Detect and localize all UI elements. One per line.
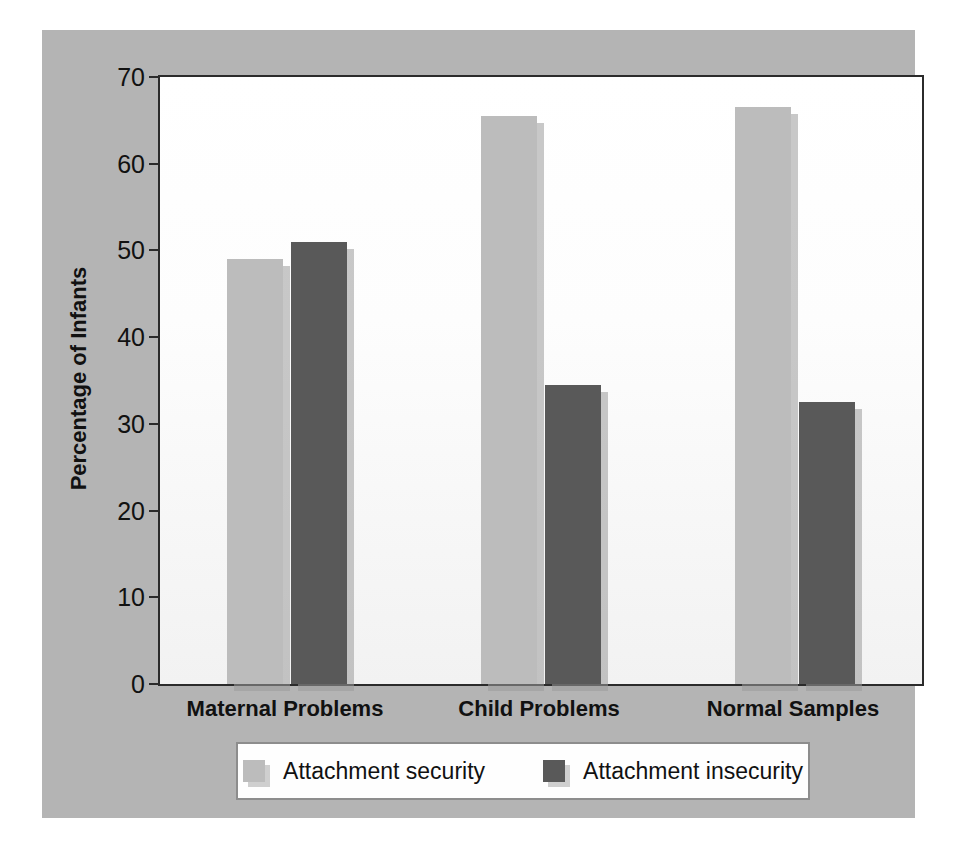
x-axis-label-child-problems: Child Problems [458, 696, 619, 722]
y-axis-tick-label: 40 [117, 325, 145, 350]
bar-maternal-problems-attachment-security [227, 259, 283, 684]
y-axis-tick-mark [149, 249, 160, 251]
bar-child-problems-attachment-insecurity [545, 385, 601, 684]
legend-item-attachment-insecurity: Attachment insecurity [543, 758, 803, 785]
figure: Percentage of Infants 010203040506070 Ma… [0, 0, 957, 844]
chart-panel: Percentage of Infants 010203040506070 Ma… [42, 30, 915, 818]
y-axis-tick-mark [149, 76, 160, 78]
legend-label: Attachment security [283, 758, 485, 785]
y-axis-tick-mark [149, 596, 160, 598]
x-axis-label-normal-samples: Normal Samples [707, 696, 879, 722]
chart-legend: Attachment security Attachment insecurit… [236, 742, 810, 800]
y-axis-tick-label: 60 [117, 151, 145, 176]
bar-child-problems-attachment-security [481, 116, 537, 684]
y-axis-tick-label: 50 [117, 238, 145, 263]
y-axis-tick-label: 0 [131, 672, 145, 697]
y-axis-tick-label: 10 [117, 585, 145, 610]
legend-swatch-icon [243, 760, 265, 782]
y-axis-tick-mark [149, 423, 160, 425]
y-axis-tick-mark [149, 683, 160, 685]
y-axis-tick-label: 20 [117, 498, 145, 523]
y-axis-tick-label: 70 [117, 65, 145, 90]
legend-label: Attachment insecurity [583, 758, 803, 785]
bar-normal-samples-attachment-insecurity [799, 402, 855, 684]
bar-maternal-problems-attachment-insecurity [291, 242, 347, 684]
x-axis-label-maternal-problems: Maternal Problems [187, 696, 384, 722]
y-axis-tick-mark [149, 510, 160, 512]
plot-area: 010203040506070 [158, 75, 924, 686]
y-axis-tick-label: 30 [117, 411, 145, 436]
legend-swatch-icon [543, 760, 565, 782]
y-axis-tick-mark [149, 163, 160, 165]
legend-item-attachment-security: Attachment security [243, 758, 485, 785]
bar-normal-samples-attachment-security [735, 107, 791, 684]
y-axis-title: Percentage of Infants [64, 75, 94, 682]
y-axis-tick-mark [149, 336, 160, 338]
